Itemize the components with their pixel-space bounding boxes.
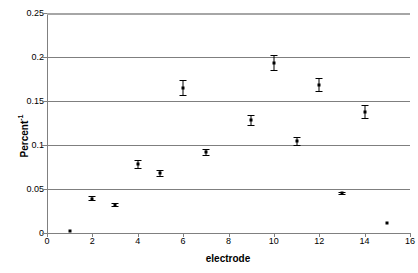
x-tick-label: 10 bbox=[269, 236, 279, 246]
data-point bbox=[133, 160, 143, 169]
x-tick-label: 14 bbox=[360, 236, 370, 246]
data-point bbox=[87, 196, 97, 201]
data-marker bbox=[91, 197, 94, 200]
data-marker bbox=[114, 203, 117, 206]
error-bar-cap-upper bbox=[157, 170, 164, 171]
error-bar-cap-upper bbox=[248, 115, 255, 116]
data-point bbox=[269, 55, 279, 71]
scatter-chart: Percent-1 00.050.10.150.20.25 0246810121… bbox=[0, 0, 418, 273]
x-tick-label: 2 bbox=[90, 236, 95, 246]
tick-mark-y bbox=[42, 145, 47, 146]
error-bar-cap-upper bbox=[293, 137, 300, 138]
x-tick-label: 16 bbox=[405, 236, 415, 246]
y-tick-labels: 00.050.10.150.20.25 bbox=[0, 0, 44, 273]
x-tick-label: 12 bbox=[314, 236, 324, 246]
error-bar-cap-upper bbox=[202, 149, 209, 150]
data-point bbox=[178, 80, 188, 96]
data-point bbox=[155, 170, 165, 177]
error-bar-cap-lower bbox=[248, 125, 255, 126]
tick-mark-y bbox=[42, 189, 47, 190]
error-bar-cap-lower bbox=[134, 168, 141, 169]
data-point bbox=[292, 137, 302, 146]
data-point bbox=[201, 149, 211, 156]
error-bar-cap-upper bbox=[180, 80, 187, 81]
data-marker bbox=[318, 84, 321, 87]
error-bar-cap-lower bbox=[361, 118, 368, 119]
gridline-y bbox=[47, 57, 410, 58]
error-bar-cap-upper bbox=[134, 160, 141, 161]
data-marker bbox=[250, 119, 253, 122]
error-bar-cap-upper bbox=[361, 105, 368, 106]
error-bar-cap-upper bbox=[316, 78, 323, 79]
data-point bbox=[65, 231, 75, 232]
data-marker bbox=[159, 172, 162, 175]
error-bar-cap-lower bbox=[293, 145, 300, 146]
error-bar-cap-lower bbox=[89, 200, 96, 201]
x-tick-label: 4 bbox=[135, 236, 140, 246]
error-bar-cap-lower bbox=[180, 95, 187, 96]
data-point bbox=[382, 223, 392, 224]
data-marker bbox=[68, 230, 71, 233]
data-point bbox=[337, 192, 347, 196]
data-point bbox=[246, 115, 256, 126]
x-tick-label: 0 bbox=[44, 236, 49, 246]
error-bar-cap-lower bbox=[270, 70, 277, 71]
data-marker bbox=[363, 111, 366, 114]
error-bar-cap-upper bbox=[270, 55, 277, 56]
tick-mark-y bbox=[42, 57, 47, 58]
data-marker bbox=[182, 86, 185, 89]
error-bar-cap-lower bbox=[202, 155, 209, 156]
data-marker bbox=[295, 140, 298, 143]
error-bar-cap-lower bbox=[316, 91, 323, 92]
x-tick-label: 6 bbox=[181, 236, 186, 246]
data-marker bbox=[340, 192, 343, 195]
gridline-y bbox=[47, 13, 410, 15]
tick-mark-y bbox=[42, 13, 47, 14]
data-marker bbox=[136, 163, 139, 166]
error-bar-cap-lower bbox=[157, 176, 164, 177]
data-point bbox=[360, 105, 370, 119]
data-marker bbox=[386, 222, 389, 225]
plot-area bbox=[47, 13, 410, 233]
data-point bbox=[314, 78, 324, 92]
tick-mark-y bbox=[42, 101, 47, 102]
data-marker bbox=[204, 151, 207, 154]
gridline-y bbox=[47, 189, 410, 190]
x-axis-title: electrode bbox=[206, 253, 250, 264]
data-marker bbox=[272, 62, 275, 65]
gridline-y bbox=[47, 101, 410, 102]
data-point bbox=[110, 203, 120, 207]
x-tick-label: 8 bbox=[226, 236, 231, 246]
gridline-y bbox=[47, 145, 410, 146]
